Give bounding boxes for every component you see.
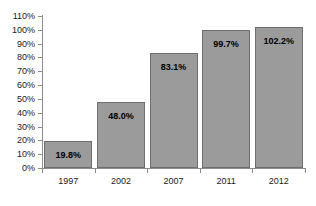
y-axis-line	[42, 15, 43, 169]
y-axis-tick-label: 100%	[1, 26, 35, 35]
x-axis-tick	[42, 169, 43, 173]
bar: 19.8%	[44, 141, 92, 168]
y-axis-tick-label: 90%	[1, 40, 35, 49]
y-axis-tick	[38, 44, 42, 45]
bar: 99.7%	[202, 30, 250, 168]
x-axis-tick	[95, 169, 96, 173]
y-axis-tick	[38, 16, 42, 17]
x-axis-category-label: 2011	[196, 177, 256, 186]
y-axis-tick	[38, 85, 42, 86]
x-axis-tick	[200, 169, 201, 173]
y-axis-tick-label: 50%	[1, 95, 35, 104]
y-axis-tick	[38, 113, 42, 114]
y-axis-tick-label: 80%	[1, 53, 35, 62]
y-axis-tick-label: 0%	[1, 164, 35, 173]
bar-value-label: 102.2%	[256, 37, 302, 46]
y-axis-tick	[38, 71, 42, 72]
y-axis-tick	[38, 30, 42, 31]
y-axis-tick-label: 60%	[1, 81, 35, 90]
x-axis-tick	[305, 169, 306, 173]
y-axis-tick-label: 70%	[1, 67, 35, 76]
bar-value-label: 83.1%	[151, 63, 197, 72]
x-axis-tick	[147, 169, 148, 173]
y-axis-tick-label: 110%	[1, 12, 35, 21]
x-axis-category-label: 1997	[38, 177, 98, 186]
y-axis-tick-label: 40%	[1, 109, 35, 118]
x-axis-category-label: 2002	[91, 177, 151, 186]
bar-value-label: 48.0%	[98, 112, 144, 121]
y-axis-tick	[38, 140, 42, 141]
y-axis-tick	[38, 127, 42, 128]
y-axis-tick	[38, 154, 42, 155]
bar-value-label: 19.8%	[45, 151, 91, 160]
bar-chart: 0%10%20%30%40%50%60%70%80%90%100%110% 19…	[0, 0, 316, 206]
bar: 83.1%	[150, 53, 198, 168]
y-axis-tick	[38, 57, 42, 58]
y-axis-tick-label: 10%	[1, 150, 35, 159]
x-axis-category-label: 2007	[144, 177, 204, 186]
bar: 102.2%	[255, 27, 303, 168]
y-axis-tick-label: 30%	[1, 123, 35, 132]
x-axis-category-label: 2012	[249, 177, 309, 186]
bar: 48.0%	[97, 102, 145, 168]
x-axis-line	[42, 168, 306, 169]
x-axis-tick	[252, 169, 253, 173]
y-axis-tick	[38, 99, 42, 100]
bar-value-label: 99.7%	[203, 40, 249, 49]
y-axis-tick-label: 20%	[1, 136, 35, 145]
